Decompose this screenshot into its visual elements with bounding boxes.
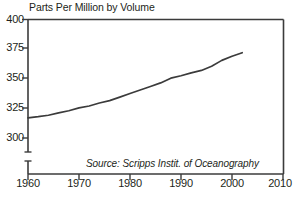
plot-area [0, 0, 296, 197]
plot-frame [25, 20, 284, 175]
data-line-co2 [28, 53, 242, 118]
y-axis-ticks [22, 20, 28, 139]
x-axis-ticks [28, 174, 283, 180]
chart-figure: Parts Per Million by Volume 400 375 350 … [0, 0, 296, 197]
